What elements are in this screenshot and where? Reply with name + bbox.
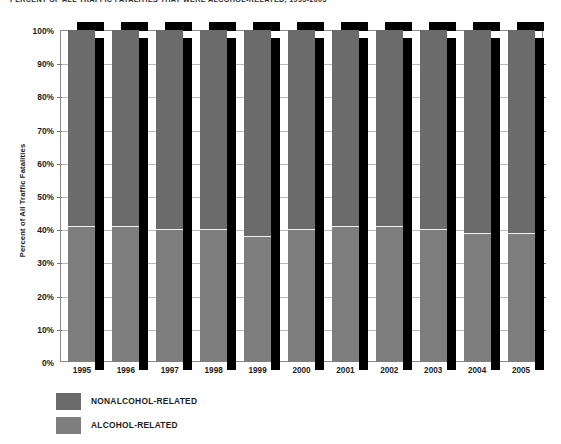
y-tick-label: 10% xyxy=(16,325,54,335)
bar-stack xyxy=(200,30,227,362)
bar-group[interactable] xyxy=(464,30,491,362)
bar-group[interactable] xyxy=(376,30,403,362)
bar-segment-nonalcohol-related[interactable] xyxy=(200,30,227,229)
legend-swatch xyxy=(56,417,81,434)
y-tick-label: 100% xyxy=(16,26,54,36)
bar-segment-nonalcohol-related[interactable] xyxy=(288,30,315,229)
bar-group[interactable] xyxy=(200,30,227,362)
bars-layer xyxy=(60,30,543,362)
bar-stack xyxy=(332,30,359,362)
bar-group[interactable] xyxy=(156,30,183,362)
y-tick-label: 70% xyxy=(16,126,54,136)
x-tick-label: 1999 xyxy=(236,366,280,375)
bar-group[interactable] xyxy=(244,30,271,362)
x-tick-label: 1995 xyxy=(60,366,104,375)
x-axis-labels: 1995199619971998199920002001200220032004… xyxy=(60,366,543,382)
bar-shadow-side xyxy=(535,38,544,370)
legend-swatch xyxy=(56,393,81,410)
bar-stack xyxy=(112,30,139,362)
y-tick-label: 0% xyxy=(16,358,54,368)
bar-segment-alcohol-related[interactable] xyxy=(508,233,535,362)
bar-segment-nonalcohol-related[interactable] xyxy=(464,30,491,233)
x-tick-label: 1997 xyxy=(148,366,192,375)
bar-stack xyxy=(464,30,491,362)
bar-segment-alcohol-related[interactable] xyxy=(200,229,227,362)
x-tick-label: 1998 xyxy=(192,366,236,375)
x-tick-label: 2005 xyxy=(499,366,543,375)
bar-segment-alcohol-related[interactable] xyxy=(68,226,95,362)
bar-segment-nonalcohol-related[interactable] xyxy=(244,30,271,236)
bar-segment-alcohol-related[interactable] xyxy=(420,229,447,362)
bar-group[interactable] xyxy=(68,30,95,362)
bar-segment-alcohol-related[interactable] xyxy=(156,229,183,362)
chart-title: PERCENT OF ALL TRAFFIC FATALITIES THAT W… xyxy=(10,0,551,6)
x-tick-label: 2001 xyxy=(323,366,367,375)
bar-group[interactable] xyxy=(508,30,535,362)
bar-shadow-side xyxy=(403,38,412,370)
bar-stack xyxy=(156,30,183,362)
legend-label: NONALCOHOL-RELATED xyxy=(91,396,197,406)
bar-segment-nonalcohol-related[interactable] xyxy=(156,30,183,229)
bar-stack xyxy=(288,30,315,362)
legend-item[interactable]: NONALCOHOL-RELATED xyxy=(56,391,356,411)
y-tick-label: 50% xyxy=(16,192,54,202)
x-tick-label: 2000 xyxy=(280,366,324,375)
bar-shadow-side xyxy=(315,38,324,370)
bar-group[interactable] xyxy=(288,30,315,362)
bar-shadow-side xyxy=(183,38,192,370)
x-tick-label: 1996 xyxy=(104,366,148,375)
bar-shadow-side xyxy=(491,38,500,370)
y-tick-label: 40% xyxy=(16,225,54,235)
chart-legend: NONALCOHOL-RELATEDALCOHOL-RELATED xyxy=(56,391,356,439)
bar-stack xyxy=(420,30,447,362)
bar-shadow-side xyxy=(359,38,368,370)
bar-shadow-side xyxy=(447,38,456,370)
legend-label: ALCOHOL-RELATED xyxy=(91,420,178,430)
bar-segment-alcohol-related[interactable] xyxy=(288,229,315,362)
bar-shadow-side xyxy=(227,38,236,370)
y-tick-label: 30% xyxy=(16,258,54,268)
legend-item[interactable]: ALCOHOL-RELATED xyxy=(56,415,356,435)
bar-group[interactable] xyxy=(112,30,139,362)
bar-segment-nonalcohol-related[interactable] xyxy=(420,30,447,229)
bar-segment-alcohol-related[interactable] xyxy=(244,236,271,362)
bar-stack xyxy=(376,30,403,362)
x-tick-label: 2002 xyxy=(367,366,411,375)
bar-group[interactable] xyxy=(332,30,359,362)
y-tick-label: 20% xyxy=(16,292,54,302)
y-tick-label: 80% xyxy=(16,92,54,102)
bar-shadow-side xyxy=(95,38,104,370)
bar-stack xyxy=(68,30,95,362)
bar-segment-nonalcohol-related[interactable] xyxy=(68,30,95,226)
bar-segment-alcohol-related[interactable] xyxy=(376,226,403,362)
bar-stack xyxy=(508,30,535,362)
x-tick-label: 2003 xyxy=(411,366,455,375)
bar-shadow-side xyxy=(139,38,148,370)
x-tick-label: 2004 xyxy=(455,366,499,375)
bar-segment-alcohol-related[interactable] xyxy=(464,233,491,362)
y-tick-label: 90% xyxy=(16,59,54,69)
bar-segment-nonalcohol-related[interactable] xyxy=(508,30,535,233)
y-tick-label: 60% xyxy=(16,159,54,169)
bar-segment-nonalcohol-related[interactable] xyxy=(332,30,359,226)
bar-segment-nonalcohol-related[interactable] xyxy=(112,30,139,226)
bar-shadow-side xyxy=(271,38,280,370)
bar-stack xyxy=(244,30,271,362)
bar-group[interactable] xyxy=(420,30,447,362)
bar-segment-nonalcohol-related[interactable] xyxy=(376,30,403,226)
bar-segment-alcohol-related[interactable] xyxy=(112,226,139,362)
bar-segment-alcohol-related[interactable] xyxy=(332,226,359,362)
